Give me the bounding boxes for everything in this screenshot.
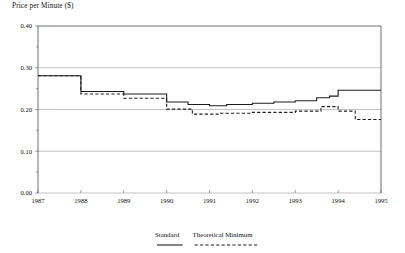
line-chart-plot: 0.400.300.200.100.00 1987198819891990199… [0,0,405,253]
x-tick-label: 1990 [160,197,174,204]
y-tick-label: 0.00 [20,189,32,196]
y-tick-label: 0.40 [20,22,32,29]
x-tick-label: 1992 [246,197,259,204]
x-tick-label: 1987 [31,197,45,204]
x-tick-marks-group [38,190,381,193]
y-tick-marks-group [35,26,38,193]
series-line-standard [38,76,381,106]
y-tick-labels-group: 0.400.300.200.100.00 [20,22,32,196]
x-tick-labels-group: 198719881989199019911992199319941995 [31,197,388,204]
data-series-group [38,76,381,120]
legend-label-standard: Standard [155,231,180,238]
y-tick-label: 0.20 [20,106,32,113]
x-tick-label: 1989 [117,197,131,204]
x-tick-label: 1991 [203,197,216,204]
legend-label-theoretical-minimum: Theoretical Minimum [193,231,254,238]
x-tick-label: 1993 [289,197,303,204]
gridlines-group [38,68,381,193]
x-tick-label: 1994 [332,197,346,204]
x-tick-label: 1995 [374,197,388,204]
y-tick-label: 0.10 [20,148,32,155]
x-tick-label: 1988 [74,197,88,204]
chart-legend: StandardTheoretical Minimum [0,228,405,253]
y-tick-label: 0.30 [20,64,32,71]
chart-figure: Price per Minute ($) 0.400.300.200.100.0… [0,0,405,253]
